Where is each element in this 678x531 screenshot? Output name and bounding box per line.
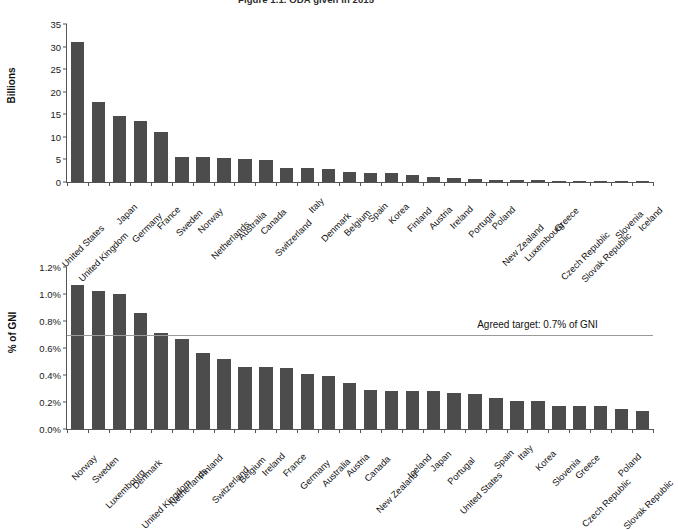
x-tick-mark (444, 182, 445, 186)
chart-oda-billions: Billions 05101520253035United StatesUnit… (0, 10, 660, 250)
x-tick-mark (465, 429, 466, 433)
bar (113, 294, 126, 429)
x-tick-mark (569, 182, 570, 186)
bar (175, 339, 188, 429)
y-tick-mark (63, 114, 67, 115)
bar (175, 157, 188, 182)
x-tick-mark (130, 182, 131, 186)
bar (301, 168, 314, 182)
figure-title: Figure 1.1. ODA given in 2015 (238, 0, 374, 5)
x-tick-mark (172, 182, 173, 186)
x-tick-mark (381, 429, 382, 433)
x-tick-label: Canada (383, 434, 413, 464)
x-tick-mark (67, 429, 68, 433)
x-tick-mark (548, 429, 549, 433)
x-tick-mark (109, 429, 110, 433)
x-tick-mark (214, 182, 215, 186)
bar (92, 102, 105, 182)
bar (447, 178, 460, 182)
chart-oda-pct-gni: % of GNI 0.0%0.2%0.4%0.6%0.8%1.0%1.2%Nor… (0, 255, 660, 501)
x-tick-mark (527, 429, 528, 433)
x-tick-mark (632, 429, 633, 433)
bar (427, 391, 440, 429)
x-tick-mark (151, 429, 152, 433)
x-tick-label: Korea (402, 187, 426, 211)
bar (636, 411, 649, 429)
x-tick-label-text: Portugal (446, 455, 477, 486)
x-tick-label: France (298, 434, 325, 461)
x-tick-mark (444, 429, 445, 433)
y-tick-mark (63, 267, 67, 268)
bar (238, 159, 251, 182)
bar (364, 173, 377, 182)
x-tick-mark (88, 182, 89, 186)
x-tick-mark (423, 429, 424, 433)
bar (343, 383, 356, 429)
bar (406, 391, 419, 429)
bar (92, 291, 105, 429)
y-axis-title-pct-gni: % of GNI (7, 293, 18, 373)
bar (552, 406, 565, 429)
x-tick-mark (234, 182, 235, 186)
bar (573, 181, 586, 182)
x-tick-mark (193, 429, 194, 433)
bar (615, 409, 628, 429)
bar (552, 181, 565, 182)
x-tick-mark (381, 182, 382, 186)
x-tick-mark (653, 429, 654, 433)
bar (259, 160, 272, 182)
bar (510, 180, 523, 182)
bar (71, 42, 84, 182)
x-tick-mark (590, 182, 591, 186)
y-tick-mark (63, 321, 67, 322)
bar (406, 175, 419, 182)
bar (636, 181, 649, 182)
bar (238, 367, 251, 429)
x-tick-mark (507, 182, 508, 186)
x-tick-mark (402, 182, 403, 186)
x-tick-mark (234, 429, 235, 433)
y-tick-mark (63, 159, 67, 160)
x-tick-mark (360, 429, 361, 433)
bar (71, 285, 84, 429)
agreed-target-line (67, 335, 653, 336)
x-tick-mark (527, 182, 528, 186)
bar (468, 179, 481, 182)
y-tick-mark (63, 69, 67, 70)
x-tick-mark (653, 182, 654, 186)
y-tick-mark (63, 46, 67, 47)
x-tick-mark (109, 182, 110, 186)
bar (489, 180, 502, 182)
x-tick-label-text: Switzerland (273, 218, 314, 259)
x-tick-label-text: Korea (534, 449, 558, 473)
x-tick-mark (548, 182, 549, 186)
x-tick-mark (611, 182, 612, 186)
bar (489, 398, 502, 429)
bar (364, 390, 377, 429)
x-tick-mark (151, 182, 152, 186)
bar (217, 359, 230, 429)
x-tick-mark (172, 429, 173, 433)
y-tick-mark (63, 402, 67, 403)
x-tick-mark (569, 429, 570, 433)
x-tick-mark (507, 429, 508, 433)
y-tick-mark (63, 348, 67, 349)
bar (594, 406, 607, 429)
bar (385, 173, 398, 182)
x-tick-mark (339, 429, 340, 433)
bar (427, 177, 440, 182)
x-tick-mark (67, 182, 68, 186)
x-tick-label: Italy (525, 434, 544, 453)
x-tick-mark (318, 182, 319, 186)
y-axis-title-billions: Billions (6, 51, 17, 121)
bar (322, 376, 335, 429)
bar (217, 158, 230, 182)
bar (301, 374, 314, 429)
agreed-target-label: Agreed target: 0.7% of GNI (477, 319, 598, 330)
bar (154, 132, 167, 182)
bar (196, 353, 209, 429)
bar (343, 172, 356, 182)
y-tick-mark (63, 136, 67, 137)
x-tick-mark (193, 182, 194, 186)
x-tick-mark (339, 182, 340, 186)
